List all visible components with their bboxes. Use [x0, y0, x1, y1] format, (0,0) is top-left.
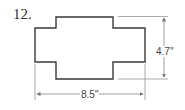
diagram-figure: 12. 4.7" 8.5"	[0, 0, 185, 110]
problem-number: 12.	[13, 6, 32, 23]
width-label: 8.5"	[80, 89, 99, 100]
shape-outline	[35, 17, 145, 79]
height-label: 4.7"	[155, 46, 174, 57]
